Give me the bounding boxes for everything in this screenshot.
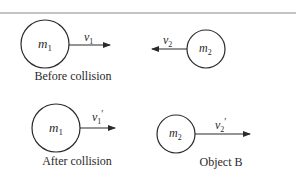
caption-after-collision: After collision [42,154,112,168]
collision-diagram: m1 v1 Before collision v2 m2 m1 v1′ Afte… [0,0,308,175]
svg-text:m2: m2 [199,41,212,57]
svg-text:v1: v1 [84,30,93,46]
svg-text:m1: m1 [49,120,63,137]
before-object-m1: m1 v1 [21,20,110,68]
svg-text:v2′: v2′ [215,116,227,134]
svg-text:v2: v2 [163,33,172,49]
caption-object-b: Object B [200,155,243,169]
caption-before-collision: Before collision [35,69,112,83]
svg-text:m2: m2 [169,126,182,142]
before-object-m2: v2 m2 [152,30,225,68]
after-object-m2: m2 v2′ [157,115,250,153]
after-object-m1: m1 v1′ [32,104,115,152]
svg-text:m1: m1 [38,36,52,53]
svg-text:v1′: v1′ [92,108,104,126]
